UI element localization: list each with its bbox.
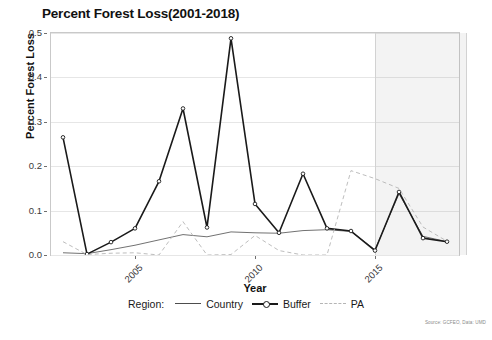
x-tick-mark (375, 256, 376, 259)
legend-title: Region: (128, 298, 164, 310)
y-tick-mark (44, 255, 47, 256)
legend-key-country-icon (175, 298, 201, 310)
y-tick-label: 0.0 (8, 249, 42, 260)
y-tick-label: 0.3 (8, 116, 42, 127)
legend-label-buffer: Buffer (283, 298, 311, 310)
y-tick-mark (44, 122, 47, 123)
data-point (397, 190, 401, 194)
legend-item-country[interactable]: Country (175, 298, 243, 310)
legend-label-country: Country (206, 298, 243, 310)
y-tick-mark (44, 33, 47, 34)
legend-key-buffer-icon (252, 298, 278, 310)
data-point (109, 240, 113, 244)
data-point (301, 172, 305, 176)
data-point (421, 236, 425, 240)
data-point (157, 180, 161, 184)
legend-item-buffer[interactable]: Buffer (252, 298, 311, 310)
data-point (445, 240, 449, 244)
source-caption: Source: GCFEO, Data: UMD (425, 320, 486, 325)
data-point (205, 226, 209, 230)
y-tick-label: 0.1 (8, 205, 42, 216)
series-lines (51, 33, 459, 255)
page-title: Percent Forest Loss(2001-2018) (42, 6, 239, 21)
data-point (373, 249, 377, 253)
legend-label-pa: PA (351, 298, 364, 310)
data-point (277, 231, 281, 235)
data-point (325, 227, 329, 231)
y-tick-mark (44, 77, 47, 78)
y-axis-ticks: 0.00.10.20.30.40.5 (8, 0, 42, 340)
y-tick-mark (44, 211, 47, 212)
series-line-buffer (63, 38, 447, 254)
y-tick-mark (44, 166, 47, 167)
data-point (133, 227, 137, 231)
legend-item-pa[interactable]: PA (320, 298, 364, 310)
data-point (349, 229, 353, 233)
data-point (253, 202, 257, 206)
y-tick-label: 0.2 (8, 160, 42, 171)
plot-area (50, 32, 460, 256)
series-line-pa (63, 171, 447, 255)
x-tick-mark (255, 256, 256, 259)
data-point (181, 107, 185, 111)
y-tick-label: 0.5 (8, 27, 42, 38)
x-tick-mark (135, 256, 136, 259)
data-point (229, 37, 233, 41)
chart-figure: Percent Forest Loss(2001-2018) Percent F… (0, 0, 492, 340)
legend: Region: Country Buffer PA (0, 298, 492, 310)
y-tick-label: 0.4 (8, 71, 42, 82)
x-axis-label: Year (50, 282, 460, 294)
legend-key-pa-icon (320, 298, 346, 310)
data-point (61, 136, 65, 140)
